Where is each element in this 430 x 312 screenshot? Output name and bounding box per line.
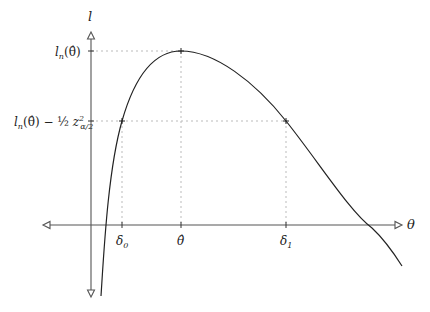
likelihood-diagram: l θ ln(θ̂) ln(θ̂) − ½ z2α/2 δ0 θ̂ δ1 (0, 0, 430, 312)
axes (43, 32, 402, 297)
x-tick-label-delta1: δ1 (280, 234, 292, 250)
y-tick-label-peak: ln(θ̂) (55, 45, 81, 61)
guide-lines (91, 51, 286, 225)
svg-text:ln(θ̂) − ½ z2α/2: ln(θ̂) − ½ z2α/2 (14, 114, 93, 131)
x-tick-label-delta0: δ0 (116, 234, 128, 250)
y-axis-arrow-up (88, 32, 95, 39)
y-tick-label-threshold: ln(θ̂) − ½ z2α/2 (14, 114, 93, 131)
log-likelihood-curve (101, 51, 402, 296)
x-tick-label-theta-hat: θ̂ (177, 234, 185, 248)
y-axis-label: l (88, 9, 92, 24)
x-axis-arrow-right (395, 222, 402, 229)
x-axis-label: θ (407, 217, 415, 232)
svg-text:ln(θ̂): ln(θ̂) (55, 45, 81, 61)
curve-points (119, 48, 289, 124)
x-axis-arrow-left (43, 222, 50, 229)
y-axis-arrow-down (88, 290, 95, 297)
